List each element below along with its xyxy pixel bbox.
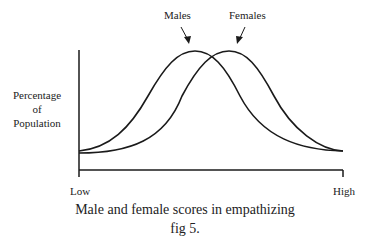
legend-males: Males (164, 9, 191, 21)
females-arrow-icon (236, 27, 245, 44)
y-axis-label: Percentage of Population (8, 88, 66, 130)
legend-females: Females (229, 9, 266, 21)
figure-caption: Male and female scores in empathizing fi… (0, 200, 370, 238)
y-axis-label-line: Population (8, 116, 66, 130)
females-curve (79, 51, 343, 153)
y-axis-label-line: Percentage (8, 88, 66, 102)
males-arrow-icon (181, 27, 191, 44)
y-axis-label-line: of (8, 102, 66, 116)
chart-title: Male and female scores in empathizing (0, 200, 370, 219)
figure-number: fig 5. (0, 219, 370, 238)
males-curve (79, 51, 343, 151)
x-tick-low: Low (70, 185, 90, 197)
x-tick-high: High (333, 185, 355, 197)
